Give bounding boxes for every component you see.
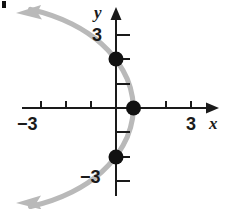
plot-canvas [0, 0, 226, 209]
x-axis-label: x [209, 115, 218, 132]
y-axis-label: y [94, 4, 102, 21]
x-tick-label-positive: 3 [186, 115, 196, 133]
point-y-intercept-positive [109, 52, 124, 67]
y-tick-label-positive: 3 [92, 26, 102, 44]
y-axis-arrowhead [111, 7, 122, 20]
parabola-figure: y x 3 −3 −3 3 [0, 0, 226, 209]
point-y-intercept-negative [109, 150, 124, 165]
y-tick-label-negative: −3 [80, 168, 101, 186]
point-vertex [126, 101, 141, 116]
x-axis-arrowhead [206, 103, 219, 114]
x-tick-label-negative: −3 [17, 115, 38, 133]
